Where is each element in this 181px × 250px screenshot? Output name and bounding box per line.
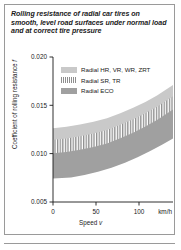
- legend-item-radial-sr-tr: Radial SR, TR: [61, 76, 150, 85]
- figure-frame: Rolling resistance of radial car tires o…: [4, 4, 175, 235]
- y-axis-label-text: Coefficient of rolling resistance: [11, 63, 18, 149]
- y-tick-label-0010: 0.010: [31, 150, 47, 157]
- y-tick-label-0015: 0.015: [31, 102, 47, 109]
- x-axis-label-text: Speed: [79, 219, 97, 226]
- y-axis-label: Coefficient of rolling resistance f: [11, 49, 18, 161]
- x-tick-label-100: 100: [134, 208, 145, 215]
- x-axis-label: Speed v: [5, 219, 176, 226]
- x-tick-label-50: 50: [92, 208, 100, 215]
- y-tick-label-0005: 0.005: [31, 198, 47, 205]
- legend-label-radial-hr-vr-wr-zrt: Radial HR, VR, WR, ZRT: [81, 66, 150, 73]
- plot-area: 0.020 0.015 0.010 0.005 0 50 100 km/h: [5, 5, 176, 236]
- legend-swatch-radial-hr-vr-wr-zrt: [61, 67, 77, 73]
- legend-label-radial-eco: Radial ECO: [81, 87, 114, 94]
- legend-item-radial-eco: Radial ECO: [61, 86, 150, 95]
- y-axis-label-symbol: f: [11, 60, 18, 62]
- chart-legend: Radial HR, VR, WR, ZRT Radial SR, TR Rad…: [61, 65, 150, 97]
- legend-label-radial-sr-tr: Radial SR, TR: [81, 77, 120, 84]
- x-tick-label-0: 0: [51, 208, 55, 215]
- y-tick-label-0020: 0.020: [31, 53, 47, 60]
- x-axis-unit: km/h: [158, 208, 172, 215]
- legend-swatch-radial-eco: [61, 88, 77, 94]
- page-rule-below-figure: [4, 243, 175, 249]
- chart-svg: 0.020 0.015 0.010 0.005 0 50 100 km/h: [5, 5, 176, 236]
- x-axis-label-symbol: v: [99, 219, 102, 226]
- legend-swatch-radial-sr-tr: [61, 77, 77, 83]
- legend-item-radial-hr-vr-wr-zrt: Radial HR, VR, WR, ZRT: [61, 65, 150, 74]
